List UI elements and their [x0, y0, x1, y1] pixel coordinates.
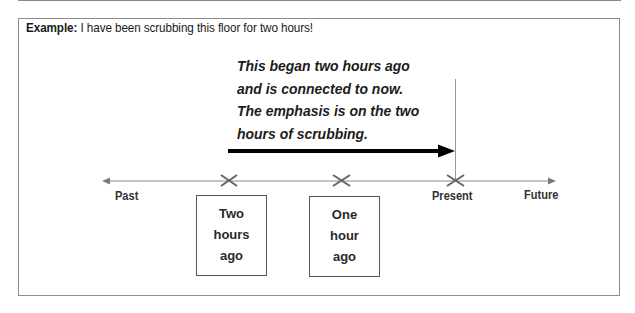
left-arrowhead-icon [102, 178, 110, 185]
box-two-hours-ago: Two hours ago [196, 195, 267, 276]
label-past: Past [115, 189, 138, 203]
timeline-axis [102, 178, 556, 185]
label-future: Future [524, 188, 558, 202]
box-line: One [310, 204, 379, 225]
box-line: hour [310, 225, 379, 246]
box-line: ago [310, 246, 379, 267]
duration-arrow-icon [228, 145, 455, 158]
right-arrowhead-icon [548, 178, 556, 185]
box-one-hour-ago: One hour ago [309, 196, 380, 277]
box-line: ago [197, 245, 266, 266]
box-line: Two [197, 203, 266, 224]
box-line: hours [197, 224, 266, 245]
label-present: Present [432, 189, 473, 203]
